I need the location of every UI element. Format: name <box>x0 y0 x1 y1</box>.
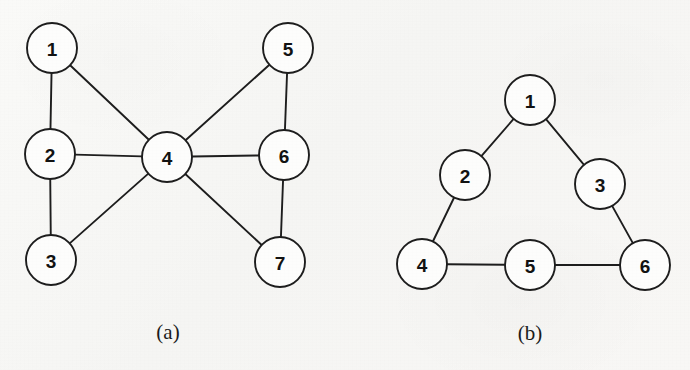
graph-edge-a-6-7 <box>281 180 283 237</box>
graph-node-b3[interactable]: 3 <box>575 159 625 209</box>
node-label-a7: 7 <box>275 253 286 274</box>
graph-edge-a-1-4 <box>70 65 149 140</box>
graph-edge-b-1-3 <box>546 119 584 165</box>
node-label-b2: 2 <box>460 166 471 187</box>
graph-edge-a-3-4 <box>70 174 149 244</box>
node-label-a3: 3 <box>46 251 57 272</box>
node-label-a1: 1 <box>47 39 58 60</box>
graph-node-a5[interactable]: 5 <box>263 23 313 73</box>
panel-caption-b: (b) <box>518 321 543 345</box>
graph-diagram-canvas: 1234567123456 (a)(b) <box>0 0 690 370</box>
captions-layer: (a)(b) <box>156 320 542 345</box>
graph-edge-b-2-4 <box>433 198 454 242</box>
node-label-a4: 4 <box>162 148 173 169</box>
graph-node-b6[interactable]: 6 <box>620 240 670 290</box>
node-label-b1: 1 <box>525 91 536 112</box>
graph-node-a1[interactable]: 1 <box>27 23 77 73</box>
graph-edge-a-1-2 <box>50 73 51 129</box>
graph-node-a4[interactable]: 4 <box>142 132 192 182</box>
graph-node-b4[interactable]: 4 <box>397 239 447 289</box>
panel-a-nodes: 1234567 <box>25 23 313 287</box>
graph-node-b5[interactable]: 5 <box>505 240 555 290</box>
node-label-a6: 6 <box>279 146 290 167</box>
graph-edge-a-5-6 <box>285 73 287 130</box>
panel-b-nodes: 123456 <box>397 75 670 290</box>
node-label-b6: 6 <box>640 256 651 277</box>
graph-edge-a-2-3 <box>50 179 51 235</box>
graph-node-b1[interactable]: 1 <box>505 75 555 125</box>
panel-caption-a: (a) <box>156 320 179 344</box>
node-label-b5: 5 <box>525 256 536 277</box>
graph-edge-a-4-5 <box>186 65 270 141</box>
graph-node-a6[interactable]: 6 <box>259 130 309 180</box>
node-label-a2: 2 <box>45 145 56 166</box>
graph-edge-a-4-6 <box>192 155 259 156</box>
graph-edge-b-1-2 <box>481 119 513 156</box>
graph-edge-a-2-4 <box>75 155 142 157</box>
graph-edge-b-3-6 <box>612 206 633 243</box>
figure-root: 1234567123456 (a)(b) <box>0 0 690 370</box>
node-label-b4: 4 <box>417 255 428 276</box>
graph-node-b2[interactable]: 2 <box>440 150 490 200</box>
graph-node-a3[interactable]: 3 <box>26 235 76 285</box>
graph-node-a2[interactable]: 2 <box>25 129 75 179</box>
graph-node-a7[interactable]: 7 <box>255 237 305 287</box>
graph-edge-a-4-7 <box>185 174 261 245</box>
node-label-a5: 5 <box>283 39 294 60</box>
node-label-b3: 3 <box>595 175 606 196</box>
graph-edge-b-4-5 <box>447 264 505 265</box>
